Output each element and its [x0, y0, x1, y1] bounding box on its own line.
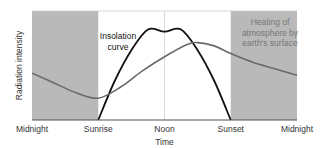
x-tick-label-noon: Noon	[154, 124, 175, 134]
x-axis-label: Time	[155, 137, 174, 147]
x-tick-label-sunrise: Sunrise	[84, 124, 113, 134]
x-tick-label-midnight: Midnight	[281, 124, 314, 134]
insolation-curve-annotation: Insolationcurve	[100, 31, 137, 52]
x-tick-label-sunset: Sunset	[218, 124, 245, 134]
x-tick-label-midnight: Midnight	[16, 124, 49, 134]
shaded-region-night-before-sunrise	[32, 11, 98, 120]
radiation-chart: MidnightSunriseNoonSunsetMidnight Time R…	[0, 0, 328, 148]
y-axis-label: Radiation intensity	[14, 30, 24, 100]
